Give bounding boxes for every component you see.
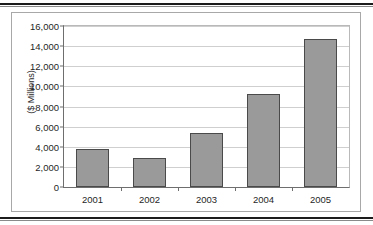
y-axis-tick-mark — [60, 66, 64, 67]
x-axis-tick-label-2002: 2002 — [139, 194, 160, 205]
y-axis-tick-mark — [60, 86, 64, 87]
gridline — [64, 26, 349, 27]
page-rule-top-hairline — [0, 6, 373, 7]
bar-2005 — [304, 39, 337, 187]
y-axis-tick-mark — [60, 46, 64, 47]
plot-area: 02,0004,0006,0008,00010,00012,00014,0001… — [63, 25, 350, 188]
y-axis-tick-mark — [60, 166, 64, 167]
bar-2003 — [190, 133, 223, 187]
page-canvas: ($ Millions) 02,0004,0006,0008,00010,000… — [0, 0, 373, 225]
y-axis-tick-label: 14,000 — [30, 41, 59, 52]
x-axis-tick-mark — [235, 187, 236, 191]
y-axis-tick-label: 0 — [54, 182, 59, 193]
page-rule-top — [0, 3, 373, 5]
y-axis-tick-label: 10,000 — [30, 81, 59, 92]
x-axis-tick-mark — [292, 187, 293, 191]
y-axis-tick-label: 4,000 — [35, 141, 59, 152]
y-axis-tick-mark — [60, 26, 64, 27]
y-axis-tick-label: 8,000 — [35, 101, 59, 112]
x-axis-tick-mark — [178, 187, 179, 191]
y-axis-tick-mark — [60, 106, 64, 107]
y-axis-tick-mark — [60, 126, 64, 127]
x-axis-tick-label-2001: 2001 — [82, 194, 103, 205]
bar-2001 — [76, 149, 109, 187]
x-axis-tick-label-2005: 2005 — [310, 194, 331, 205]
x-axis-tick-mark — [121, 187, 122, 191]
y-axis-tick-label: 16,000 — [30, 21, 59, 32]
x-axis-tick-label-2004: 2004 — [253, 194, 274, 205]
y-axis-tick-mark — [60, 187, 64, 188]
bar-2004 — [247, 94, 280, 187]
y-axis-tick-label: 12,000 — [30, 61, 59, 72]
bar-2002 — [133, 158, 166, 187]
page-rule-bottom-hairline — [0, 220, 373, 221]
x-axis-tick-label-2003: 2003 — [196, 194, 217, 205]
page-rule-bottom — [0, 217, 373, 219]
y-axis-tick-label: 2,000 — [35, 161, 59, 172]
y-axis-tick-label: 6,000 — [35, 121, 59, 132]
y-axis-tick-mark — [60, 146, 64, 147]
chart-frame: ($ Millions) 02,0004,0006,0008,00010,000… — [11, 12, 361, 212]
